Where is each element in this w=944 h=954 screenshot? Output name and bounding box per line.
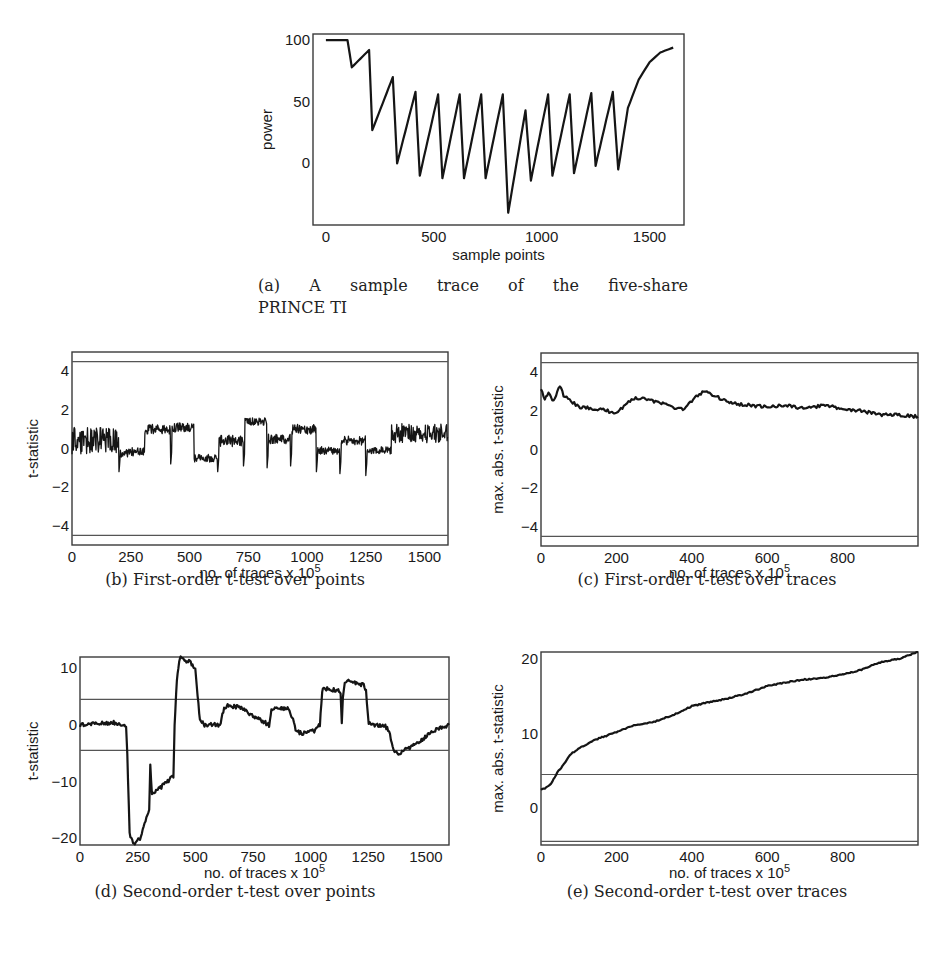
y-tick-label: 4 bbox=[61, 362, 69, 379]
x-tick-label: 0 bbox=[537, 848, 545, 865]
y-axis-label: t-statistic bbox=[24, 418, 41, 478]
chart-e-second-order-traces: 020040060080001020no. of traces x 105max… bbox=[489, 650, 918, 881]
chart-c-first-order-traces: 0200400600800−4−2024no. of traces x 105m… bbox=[489, 353, 918, 581]
y-tick-label: 2 bbox=[61, 401, 69, 418]
data-line bbox=[541, 652, 918, 790]
x-tick-label: 1000 bbox=[525, 228, 558, 245]
x-tick-label: 200 bbox=[604, 549, 629, 566]
x-axis-label: no. of traces x 105 bbox=[204, 862, 325, 881]
x-tick-label: 500 bbox=[421, 228, 446, 245]
x-tick-label: 1500 bbox=[408, 548, 441, 565]
chart-a-sample-trace: 050010001500050100sample pointspower bbox=[258, 31, 684, 263]
figure: 050010001500050100sample pointspower 025… bbox=[0, 0, 944, 954]
plot-frame bbox=[541, 353, 918, 546]
caption-c: (c) First-order t-test over traces bbox=[470, 570, 944, 589]
x-tick-label: 250 bbox=[125, 848, 150, 865]
x-tick-label: 0 bbox=[76, 848, 84, 865]
x-tick-label: 800 bbox=[830, 549, 855, 566]
y-axis-label: max. abs. t-statistic bbox=[489, 684, 506, 813]
caption-e: (e) Second-order t-test over traces bbox=[470, 882, 944, 901]
x-tick-label: 250 bbox=[118, 548, 143, 565]
y-tick-label: 20 bbox=[521, 650, 538, 667]
y-tick-label: 0 bbox=[61, 440, 69, 457]
x-tick-label: 500 bbox=[177, 548, 202, 565]
x-tick-label: 1250 bbox=[349, 548, 382, 565]
y-tick-label: −2 bbox=[52, 478, 69, 495]
data-line bbox=[541, 387, 918, 418]
data-line bbox=[72, 418, 448, 476]
x-tick-label: 0 bbox=[322, 228, 330, 245]
caption-a: (a) A sample trace of the five-share PRI… bbox=[258, 275, 688, 319]
y-tick-label: 4 bbox=[530, 363, 538, 380]
x-tick-label: 750 bbox=[240, 848, 265, 865]
y-tick-label: −4 bbox=[52, 517, 69, 534]
x-tick-label: 500 bbox=[183, 848, 208, 865]
x-axis-label: sample points bbox=[452, 246, 545, 263]
y-tick-label: −10 bbox=[52, 773, 77, 790]
x-tick-label: 0 bbox=[537, 549, 545, 566]
y-tick-label: 0 bbox=[302, 154, 310, 171]
x-tick-label: 750 bbox=[236, 548, 261, 565]
y-tick-label: −4 bbox=[521, 518, 538, 535]
caption-a-line1: (a) A sample trace of the five-share bbox=[258, 275, 688, 297]
data-line bbox=[326, 40, 673, 213]
x-axis-label: no. of traces x 105 bbox=[669, 862, 790, 881]
chart-d-second-order-points: 0250500750100012501500−20−10010no. of tr… bbox=[24, 657, 449, 882]
y-tick-label: −2 bbox=[521, 479, 538, 496]
y-tick-label: 0 bbox=[530, 799, 538, 816]
x-tick-label: 200 bbox=[604, 848, 629, 865]
y-axis-label: max. abs. t-statistic bbox=[489, 385, 506, 514]
y-tick-label: 10 bbox=[521, 725, 538, 742]
y-tick-label: 50 bbox=[293, 93, 310, 110]
y-tick-label: 2 bbox=[530, 402, 538, 419]
x-tick-label: 0 bbox=[68, 548, 76, 565]
y-tick-label: 10 bbox=[60, 659, 77, 676]
x-tick-label: 600 bbox=[755, 848, 780, 865]
y-tick-label: 0 bbox=[530, 441, 538, 458]
y-tick-label: −20 bbox=[52, 829, 77, 846]
y-tick-label: 100 bbox=[285, 31, 310, 48]
x-tick-label: 1500 bbox=[409, 848, 442, 865]
chart-b-first-order-points: 0250500750100012501500−4−2024no. of trac… bbox=[24, 352, 448, 581]
plot-frame bbox=[541, 652, 918, 845]
x-tick-label: 800 bbox=[830, 848, 855, 865]
x-tick-label: 1250 bbox=[352, 848, 385, 865]
x-tick-label: 400 bbox=[679, 848, 704, 865]
caption-d: (d) Second-order t-test over points bbox=[0, 882, 470, 901]
caption-a-line2: PRINCE TI bbox=[258, 298, 347, 317]
x-tick-label: 1500 bbox=[633, 228, 666, 245]
y-tick-label: 0 bbox=[69, 716, 77, 733]
y-axis-label: t-statistic bbox=[24, 721, 41, 781]
caption-b: (b) First-order t-test over points bbox=[0, 570, 470, 589]
y-axis-label: power bbox=[258, 109, 275, 150]
